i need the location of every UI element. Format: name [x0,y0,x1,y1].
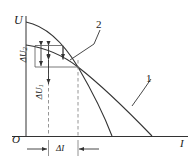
x-axis-label: I [180,138,184,149]
delta-i-label: ΔI [56,144,64,153]
axes [12,16,188,137]
curve-1-label: 1 [146,73,152,84]
delta-u1-base: ΔU [34,88,44,100]
construction-dashed-lines [49,52,79,136]
y-axis-label: U [14,14,23,26]
figure-container: U I O 1 2 ΔI ΔU2 ΔU1 [0,0,195,163]
delta-u1-label: ΔU1 [35,84,45,99]
origin-label: O [12,134,20,145]
delta-u2-base: ΔU [18,51,28,63]
curve-2-leader-line [70,30,100,60]
curve-2-label: 2 [96,19,102,30]
delta-u2-label: ΔU2 [19,47,29,62]
delta-u1-subscript: 1 [37,84,45,88]
delta-u2-subscript: 2 [21,47,29,51]
curve-2 [26,22,112,136]
